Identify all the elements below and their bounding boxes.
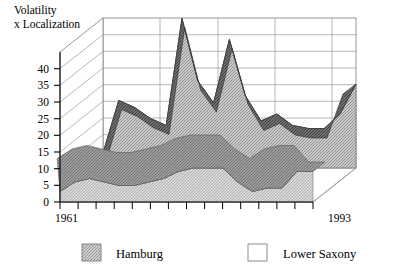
chart-title-line2: x Localization bbox=[14, 18, 80, 30]
legend-swatch-hamburg bbox=[82, 244, 101, 261]
y-tick-label-5: 5 bbox=[43, 179, 49, 191]
y-tick-label-0: 0 bbox=[43, 196, 49, 208]
legend-label-hamburg: Hamburg bbox=[116, 247, 164, 261]
chart-figure: 0 5 10 15 20 25 30 35 40 bbox=[0, 0, 398, 275]
y-tick-label-35: 35 bbox=[38, 79, 50, 91]
y-tick-label-10: 10 bbox=[38, 163, 50, 175]
legend-swatch-lower-saxony bbox=[248, 244, 267, 261]
y-tick-label-20: 20 bbox=[38, 129, 50, 141]
y-tick-label-15: 15 bbox=[38, 146, 50, 158]
x-tick-label-start: 1961 bbox=[55, 212, 78, 224]
chart-title-line1: Volatility bbox=[14, 4, 57, 17]
y-tick-label-40: 40 bbox=[38, 63, 50, 75]
x-tick-label-end: 1993 bbox=[328, 212, 351, 224]
legend-label-lower-saxony: Lower Saxony bbox=[283, 247, 357, 261]
y-tick-label-30: 30 bbox=[38, 96, 50, 108]
y-tick-label-25: 25 bbox=[38, 113, 50, 125]
chart-svg: 0 5 10 15 20 25 30 35 40 bbox=[0, 0, 398, 275]
